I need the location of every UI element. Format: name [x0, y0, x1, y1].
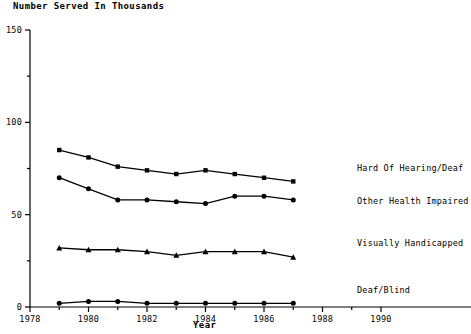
series-label-4: Deaf/Blind: [357, 285, 410, 295]
series-1: [57, 148, 295, 184]
x-axis-label: Year: [193, 320, 216, 330]
series-label-3: Visually Handicapped: [357, 238, 463, 248]
series-3: [56, 245, 296, 260]
chart-figure: Number Served In Thousands 0501001501978…: [0, 0, 471, 334]
x-tick-label: 1988: [308, 314, 338, 324]
y-tick-label: 100: [0, 117, 22, 127]
x-tick-label: 1982: [132, 314, 162, 324]
series-label-1: Hard Of Hearing/Deaf: [357, 163, 463, 173]
x-tick-label: 1980: [74, 314, 104, 324]
series-2: [57, 175, 296, 206]
y-tick-label: 0: [0, 302, 22, 312]
y-tick-label: 50: [0, 210, 22, 220]
y-tick-label: 150: [0, 25, 22, 35]
series-label-2: Other Health Impaired: [357, 196, 469, 206]
series-4: [57, 299, 296, 306]
x-tick-label: 1990: [366, 314, 396, 324]
x-tick-label: 1978: [15, 314, 45, 324]
x-tick-label: 1986: [249, 314, 279, 324]
